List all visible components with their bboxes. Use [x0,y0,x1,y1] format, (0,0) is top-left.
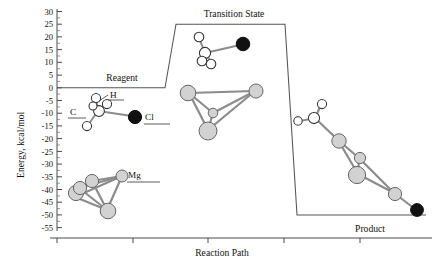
y-tick-label: 30 [44,7,53,17]
atom-magnesium [180,85,196,101]
atom-label-hydrogen: H [110,90,117,100]
energy-profile-curve [57,24,426,215]
atom-hydrogen [82,121,91,130]
chart-canvas: 30 25 20 15 10 5 0 -5 -10 -15 -20 -25 -3… [0,0,439,266]
y-tick-label: -5 [46,96,53,106]
y-tick-label: -20 [42,134,53,144]
atom-magnesium [388,187,401,200]
label-product: Product [355,223,385,234]
y-tick-label: 15 [44,45,53,55]
x-axis: Reaction Path [50,238,432,258]
y-tick-label: 10 [44,57,53,67]
y-tick-label: -45 [42,197,53,207]
atom-carbon [308,112,319,123]
x-axis-title: Reaction Path [195,247,249,258]
molecule-reagent-methyl-chloride: H C Cl [68,90,170,131]
atom-hydrogen [197,56,207,66]
label-reagent: Reagent [106,72,138,83]
y-axis: 30 25 20 15 10 5 0 -5 -10 -15 -20 -25 -3… [42,7,62,233]
atom-magnesium [249,84,263,98]
intermediate-cluster-bonds [189,91,255,130]
atom-magnesium [354,152,365,163]
energy-diagram-figure: Energy, kcal/mol [0,0,439,266]
y-axis-tick-labels: 30 25 20 15 10 5 0 -5 -10 -15 -20 -25 -3… [42,7,53,233]
atom-chlorine [236,37,250,51]
y-tick-label: 20 [44,32,53,42]
y-axis-title: Energy, kcal/mol [16,112,26,178]
y-tick-label: 0 [49,83,53,93]
atom-label-magnesium: Mg [128,170,141,180]
molecule-product-complex [294,99,424,216]
atom-magnesium [348,166,365,183]
atom-label-carbon: C [70,107,76,117]
atom-hydrogen [294,117,302,125]
atom-hydrogen [317,99,326,108]
y-tick-label: -10 [42,108,53,118]
atom-magnesium [73,181,86,194]
atom-magnesium [85,174,98,187]
y-tick-label: -25 [42,147,53,157]
y-tick-label: -15 [42,121,53,131]
atom-chlorine [411,204,424,217]
atom-magnesium [208,108,218,118]
atom-hydrogen [102,99,111,108]
y-tick-label: -55 [42,223,53,233]
atom-magnesium [332,134,346,148]
y-tick-label: 5 [49,70,53,80]
y-tick-label: -35 [42,172,53,182]
atom-label-chlorine: Cl [145,112,154,122]
atom-hydrogen [194,32,204,42]
molecule-transition-state-complex [194,32,250,69]
molecule-intermediate-metal-cluster [180,84,263,140]
y-tick-label: -40 [42,185,53,195]
y-tick-label: 25 [44,19,53,29]
atom-magnesium [199,122,217,140]
atom-hydrogen [206,59,216,69]
label-transition-state: Transition State [204,8,265,19]
y-tick-label: -30 [42,159,53,169]
atom-magnesium [116,170,128,182]
y-tick-label: -50 [42,210,53,220]
atom-magnesium [100,203,116,219]
atom-chlorine [128,110,141,123]
molecule-magnesium-cluster: Mg [68,170,160,219]
atom-carbon-core [89,102,97,110]
